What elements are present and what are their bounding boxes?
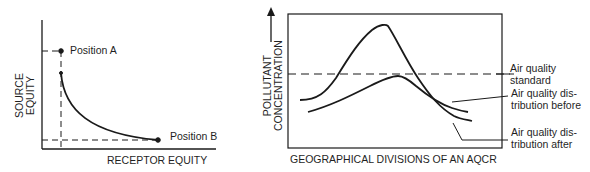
air-quality-standard-label: Air quality standard bbox=[510, 62, 556, 86]
position-b-dot bbox=[156, 138, 161, 143]
before-line1: Air quality dis- bbox=[511, 87, 581, 99]
after-line1: Air quality dis- bbox=[511, 126, 577, 138]
right-plot-frame bbox=[288, 14, 502, 148]
right-chart bbox=[267, 7, 514, 148]
receptor-equity-label: RECEPTOR EQUITY bbox=[107, 154, 207, 166]
pollutant-concentration-label: POLLUTANT CONCENTRATION bbox=[262, 40, 284, 131]
distribution-before-label: Air quality dis- tribution before bbox=[511, 87, 581, 111]
standard-line2: standard bbox=[510, 74, 556, 86]
distribution-after-label: Air quality dis- tribution after bbox=[511, 126, 577, 150]
source-equity-label: SOURCE EQUITY bbox=[14, 73, 36, 118]
diagram-canvas bbox=[0, 0, 590, 172]
equity-curve bbox=[61, 73, 158, 140]
distribution-after-curve bbox=[308, 76, 468, 112]
position-a-label: Position A bbox=[70, 44, 117, 56]
position-b-label: Position B bbox=[170, 130, 217, 142]
geographical-divisions-label: GEOGRAPHICAL DIVISIONS OF AN AQCR bbox=[290, 153, 497, 165]
pollutant-line2: CONCENTRATION bbox=[273, 40, 284, 131]
standard-line1: Air quality bbox=[510, 62, 556, 74]
before-line2: tribution before bbox=[511, 99, 581, 111]
after-leader bbox=[453, 123, 508, 140]
source-equity-line2: EQUITY bbox=[25, 73, 36, 118]
after-line2: tribution after bbox=[511, 138, 577, 150]
curve-start-dot bbox=[60, 72, 63, 75]
before-leader bbox=[452, 96, 508, 102]
y-arrow-head bbox=[267, 7, 275, 16]
position-a-dot bbox=[59, 49, 64, 54]
